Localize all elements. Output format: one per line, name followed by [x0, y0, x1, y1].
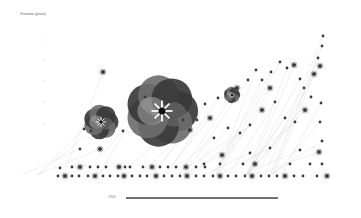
y-axis-ticks: [42, 40, 46, 124]
timeline-label: 1950: [108, 195, 116, 199]
chart-svg: [0, 0, 361, 218]
y-axis-label: Duration (years): [20, 12, 46, 16]
chart-area: Duration (years) 1950: [0, 0, 361, 218]
large-flower-glyphs: [84, 75, 240, 146]
